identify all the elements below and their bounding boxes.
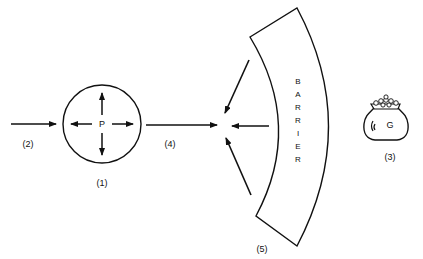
incoming-arrow-label: (2) [23,139,34,149]
person-letter: P [99,119,105,129]
goal-letter: G [386,120,393,130]
goal-pot-icon [364,95,408,140]
barrier-text: B A R R I E R [295,77,301,164]
svg-text:R: R [295,116,301,125]
svg-text:E: E [295,142,300,151]
svg-text:R: R [295,103,301,112]
person-label: (1) [97,178,108,188]
svg-text:A: A [295,90,301,99]
barrier-shape [250,8,329,246]
frustration-diagram: (2) P (1) (4) B A R R I E R (5) [0,0,423,259]
svg-text:R: R [295,155,301,164]
barrier-label: (5) [257,244,268,254]
goal-label: (3) [385,152,396,162]
outgoing-arrow-label: (4) [165,139,176,149]
svg-text:B: B [295,77,300,86]
reflected-arrows [225,60,269,195]
svg-text:I: I [297,129,299,138]
